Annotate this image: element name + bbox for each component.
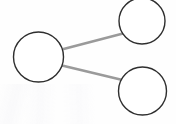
- node-bottom-right-circle[interactable]: [119, 67, 167, 115]
- node-top-right-circle[interactable]: [119, 0, 165, 44]
- node-hub-circle[interactable]: [14, 32, 64, 82]
- diagram-canvas: [0, 0, 176, 124]
- node-bottom-right[interactable]: [119, 67, 167, 115]
- edge-layer: [62, 34, 123, 81]
- node-link-graph: [0, 0, 176, 124]
- edge-hub-to-top-right[interactable]: [63, 34, 123, 50]
- node-top-right[interactable]: [119, 0, 165, 44]
- edge-hub-to-bottom-right[interactable]: [62, 66, 123, 81]
- node-hub[interactable]: [14, 32, 64, 82]
- node-layer: [14, 0, 167, 115]
